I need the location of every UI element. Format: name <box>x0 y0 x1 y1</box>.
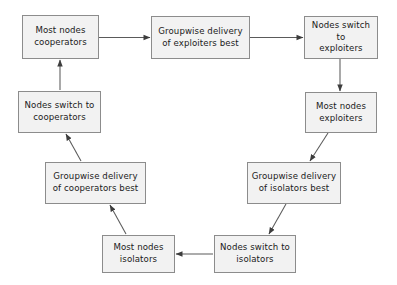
node-most-nodes-cooperators[interactable]: Most nodes cooperators <box>22 15 99 59</box>
edge-most-isolators-to-groupwise-cooperators <box>110 205 126 234</box>
node-nodes-switch-to-cooperators[interactable]: Nodes switch to cooperators <box>18 91 101 133</box>
edge-groupwise-cooperators-to-switch-cooperators <box>66 134 81 161</box>
node-nodes-switch-to-exploiters[interactable]: Nodes switch to exploiters <box>304 16 378 59</box>
edge-most-exploiters-to-groupwise-isolators <box>310 133 328 161</box>
node-groupwise-delivery-isolators-best[interactable]: Groupwise delivery of isolators best <box>247 162 341 204</box>
edge-groupwise-isolators-to-switch-isolators <box>269 204 286 234</box>
node-groupwise-delivery-exploiters-best[interactable]: Groupwise delivery of exploiters best <box>151 16 250 59</box>
node-nodes-switch-to-isolators[interactable]: Nodes switch to isolators <box>214 235 296 273</box>
node-groupwise-delivery-cooperators-best[interactable]: Groupwise delivery of cooperators best <box>45 162 146 204</box>
diagram-canvas: Most nodes cooperators Groupwise deliver… <box>0 0 397 285</box>
node-most-nodes-isolators[interactable]: Most nodes isolators <box>102 235 175 273</box>
node-most-nodes-exploiters[interactable]: Most nodes exploiters <box>305 92 377 133</box>
